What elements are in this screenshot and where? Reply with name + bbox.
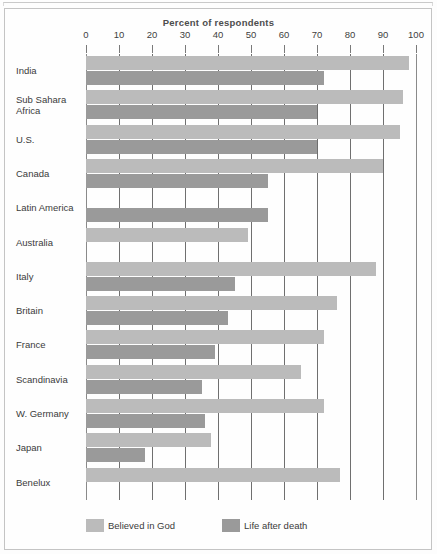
legend-label-believed-in-god: Believed in God xyxy=(108,520,175,531)
category-label-line: Scandinavia xyxy=(16,374,96,385)
chart-row xyxy=(86,330,416,360)
category-label-line: Britain xyxy=(16,305,96,316)
chart-row xyxy=(86,193,416,223)
bar-italy-believed-in-god xyxy=(86,262,376,276)
plot-area: 0102030405060708090100 xyxy=(86,54,416,500)
category-label-line: U.S. xyxy=(16,134,96,145)
category-label-w-germany: W. Germany xyxy=(16,408,96,419)
bar-w-germany-believed-in-god xyxy=(86,399,324,413)
axis-tick-100 xyxy=(416,45,417,53)
bar-scandinavia-life-after-death xyxy=(86,380,202,394)
category-label-latin-america: Latin America xyxy=(16,202,96,213)
axis-tick-label-30: 30 xyxy=(172,29,198,40)
bar-britain-life-after-death xyxy=(86,311,228,325)
category-label-line: Australia xyxy=(16,237,96,248)
category-label-line: France xyxy=(16,339,96,350)
chart-row xyxy=(86,365,416,395)
category-label-india: India xyxy=(16,65,96,76)
bar-sub-sahara-africa-life-after-death xyxy=(86,105,317,119)
category-label-japan: Japan xyxy=(16,442,96,453)
axis-tick-label-70: 70 xyxy=(304,29,330,40)
bar-australia-believed-in-god xyxy=(86,228,248,242)
axis-tick-label-100: 100 xyxy=(403,29,429,40)
chart-title: Percent of respondents xyxy=(0,17,437,28)
chart-row xyxy=(86,125,416,155)
axis-tick-label-20: 20 xyxy=(139,29,165,40)
axis-tick-label-80: 80 xyxy=(337,29,363,40)
axis-tick-20 xyxy=(152,45,153,53)
axis-tick-label-40: 40 xyxy=(205,29,231,40)
chart-row xyxy=(86,159,416,189)
bar-india-believed-in-god xyxy=(86,56,409,70)
bar-canada-life-after-death xyxy=(86,174,268,188)
category-label-australia: Australia xyxy=(16,237,96,248)
axis-tick-80 xyxy=(350,45,351,53)
category-label-canada: Canada xyxy=(16,168,96,179)
gridline-100 xyxy=(416,54,417,500)
chart-row xyxy=(86,296,416,326)
axis-tick-0 xyxy=(86,45,87,53)
chart-figure: Percent of respondents 01020304050607080… xyxy=(0,0,437,554)
bar-canada-believed-in-god xyxy=(86,159,383,173)
chart-row xyxy=(86,262,416,292)
category-label-scandinavia: Scandinavia xyxy=(16,374,96,385)
category-label-u-s-: U.S. xyxy=(16,134,96,145)
category-label-britain: Britain xyxy=(16,305,96,316)
axis-tick-60 xyxy=(284,45,285,53)
category-label-line: India xyxy=(16,65,96,76)
axis-tick-label-50: 50 xyxy=(238,29,264,40)
bar-britain-believed-in-god xyxy=(86,296,337,310)
bar-latin-america-life-after-death xyxy=(86,208,268,222)
legend-item-believed-in-god: Believed in God xyxy=(86,517,175,533)
bar-u-s--life-after-death xyxy=(86,140,317,154)
figure-outer-border xyxy=(3,2,433,6)
axis-tick-70 xyxy=(317,45,318,53)
axis-tick-label-90: 90 xyxy=(370,29,396,40)
category-label-line: Sub Sahara xyxy=(16,94,96,105)
axis-tick-label-10: 10 xyxy=(106,29,132,40)
legend-swatch-believed-in-god xyxy=(86,519,104,532)
axis-tick-10 xyxy=(119,45,120,53)
bar-india-life-after-death xyxy=(86,71,324,85)
chart-legend: Believed in God Life after death xyxy=(0,517,437,537)
bar-sub-sahara-africa-believed-in-god xyxy=(86,90,403,104)
bar-scandinavia-believed-in-god xyxy=(86,365,301,379)
category-label-line: Japan xyxy=(16,442,96,453)
legend-label-life-after-death: Life after death xyxy=(244,520,307,531)
axis-tick-40 xyxy=(218,45,219,53)
bar-u-s--believed-in-god xyxy=(86,125,400,139)
bar-france-believed-in-god xyxy=(86,330,324,344)
chart-row xyxy=(86,56,416,86)
chart-row xyxy=(86,399,416,429)
axis-tick-50 xyxy=(251,45,252,53)
category-label-line: Latin America xyxy=(16,202,96,213)
category-label-france: France xyxy=(16,339,96,350)
axis-tick-30 xyxy=(185,45,186,53)
category-label-benelux: Benelux xyxy=(16,477,96,488)
axis-tick-label-60: 60 xyxy=(271,29,297,40)
axis-tick-90 xyxy=(383,45,384,53)
bar-w-germany-life-after-death xyxy=(86,414,205,428)
bar-japan-believed-in-god xyxy=(86,433,211,447)
chart-row xyxy=(86,228,416,258)
chart-row xyxy=(86,433,416,463)
legend-swatch-life-after-death xyxy=(222,519,240,532)
category-label-italy: Italy xyxy=(16,271,96,282)
chart-row xyxy=(86,468,416,498)
bar-france-life-after-death xyxy=(86,345,215,359)
category-label-line: Africa xyxy=(16,105,96,116)
chart-row xyxy=(86,90,416,120)
axis-tick-label-0: 0 xyxy=(73,29,99,40)
legend-item-life-after-death: Life after death xyxy=(222,517,307,533)
category-label-line: Italy xyxy=(16,271,96,282)
category-label-line: Benelux xyxy=(16,477,96,488)
category-label-sub-sahara-africa: Sub SaharaAfrica xyxy=(16,94,96,116)
bar-italy-life-after-death xyxy=(86,277,235,291)
category-label-line: Canada xyxy=(16,168,96,179)
category-label-line: W. Germany xyxy=(16,408,96,419)
bar-benelux-believed-in-god xyxy=(86,468,340,482)
